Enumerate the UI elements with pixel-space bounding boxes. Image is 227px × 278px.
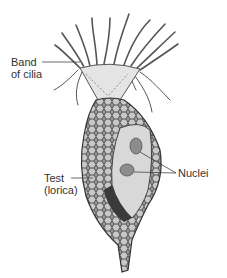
label-nuclei: Nuclei [178,167,209,179]
label-line-2: of cilia [11,68,42,80]
label-test-lorica: Test (lorica) [44,172,78,196]
nucleus-lower [120,164,134,176]
tintinnid-illustration [0,0,227,278]
collar [80,64,140,102]
label-line-2: (lorica) [44,184,78,196]
label-line-1: Band [11,56,42,68]
label-line-1: Test [44,172,78,184]
label-band-of-cilia: Band of cilia [11,56,42,80]
nucleus-upper [130,138,142,154]
